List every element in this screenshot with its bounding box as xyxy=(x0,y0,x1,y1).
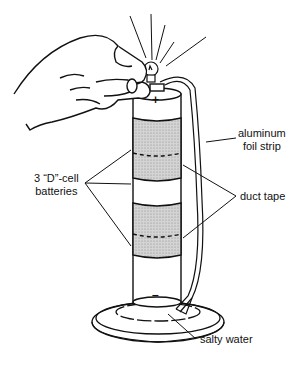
label-aluminum-foil-strip: aluminum foil strip xyxy=(238,127,286,153)
hand xyxy=(14,35,150,130)
label-duct-tape: duct tape xyxy=(240,190,285,203)
label-batteries: 3 “D”-cell batteries xyxy=(34,172,79,198)
label-foil-line2: foil strip xyxy=(238,140,286,153)
positive-terminal: + xyxy=(152,93,159,107)
battery-stack xyxy=(133,84,181,307)
label-batteries-line1: 3 “D”-cell xyxy=(34,172,79,185)
negative-terminal: – xyxy=(152,288,159,302)
light-rays xyxy=(130,14,206,66)
label-salty-water: salty water xyxy=(200,333,253,346)
label-foil-line1: aluminum xyxy=(238,127,286,140)
label-batteries-line2: batteries xyxy=(34,185,79,198)
battery-diagram: + – aluminum foil strip 3 “D”-cell batte… xyxy=(0,0,303,366)
